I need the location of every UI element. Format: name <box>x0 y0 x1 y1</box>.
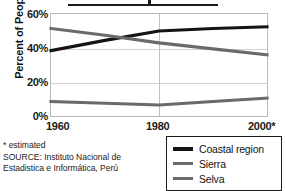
x-tick-2000: 2000* <box>248 120 275 132</box>
legend-item-sierra: Sierra <box>173 156 281 171</box>
line-coastal-region <box>51 27 267 51</box>
line-selva <box>51 98 267 105</box>
footnote-source-line1: SOURCE: Instituto Nacional de <box>3 152 163 164</box>
legend-swatch-coastal-region <box>173 147 193 151</box>
y-axis-tick-labels: 60% 40% 20% 0% <box>0 13 48 117</box>
x-tick-1960: 1960 <box>46 120 69 132</box>
series-lines <box>51 14 267 116</box>
y-tick-40: 40% <box>2 42 48 54</box>
legend-label-selva: Selva <box>199 173 224 185</box>
title-descender-cropped <box>148 0 151 4</box>
y-tick-20: 20% <box>2 76 48 88</box>
y-tick-0: 0% <box>2 110 48 122</box>
x-tick-1980: 1980 <box>146 120 169 132</box>
legend-swatch-selva <box>173 177 193 180</box>
y-tick-60: 60% <box>2 8 48 20</box>
footnote-block: * estimated SOURCE: Instituto Nacional d… <box>3 140 163 175</box>
plot-area <box>50 13 268 117</box>
chart-figure: Percent of People 60% 40% 20% 0% 1960 19… <box>0 0 286 191</box>
legend-label-sierra: Sierra <box>199 158 226 170</box>
legend-item-coastal-region: Coastal region <box>173 141 281 156</box>
footnote-estimated: * estimated <box>3 140 163 152</box>
footnote-source-line2: Estadistica e Informática, Perú <box>3 163 163 175</box>
legend-swatch-sierra <box>173 162 193 165</box>
title-rule-cropped <box>68 4 218 6</box>
legend-item-selva: Selva <box>173 171 281 186</box>
legend-label-coastal-region: Coastal region <box>199 143 264 155</box>
chart-legend: Coastal region Sierra Selva <box>166 136 282 191</box>
